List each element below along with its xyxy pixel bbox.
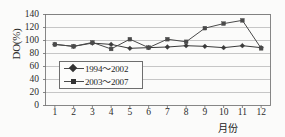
data-point-marker: [184, 40, 188, 44]
diamond-marker-icon: [63, 63, 85, 75]
data-point-marker: [53, 43, 57, 47]
data-point-marker: [184, 43, 189, 48]
square-marker-icon: [63, 76, 85, 88]
data-point-marker: [165, 45, 170, 50]
legend-label-1994-2002: 1994～2002: [85, 62, 128, 75]
plot-frame: [46, 15, 271, 106]
data-point-marker: [72, 44, 76, 48]
legend-item-2003-2007: 2003～2007: [63, 75, 128, 88]
legend-label-2003-2007: 2003～2007: [85, 75, 128, 88]
data-point-marker: [221, 45, 226, 50]
data-point-marker: [109, 42, 114, 47]
chart-legend: 1994～2002 2003～2007: [59, 61, 143, 89]
data-point-marker: [203, 26, 207, 30]
data-point-marker: [147, 46, 151, 50]
data-point-marker: [202, 44, 207, 49]
data-point-marker: [240, 18, 244, 22]
data-point-marker: [259, 46, 263, 50]
data-point-marker: [90, 41, 94, 45]
data-point-marker: [109, 47, 113, 51]
do-percent-line-chart: DO(%) 月份 020406080100120140 123456789101…: [0, 0, 285, 137]
data-point-marker: [128, 37, 132, 41]
data-point-marker: [127, 46, 132, 51]
data-point-marker: [165, 37, 169, 41]
data-point-marker: [222, 22, 226, 26]
data-point-marker: [240, 43, 245, 48]
legend-item-1994-2002: 1994～2002: [63, 62, 128, 75]
